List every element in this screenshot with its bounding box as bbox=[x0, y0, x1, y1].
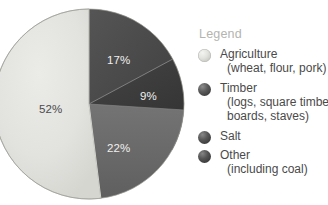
legend-sub-line: (wheat, flour, pork) bbox=[227, 61, 328, 76]
legend-swatch-salt-icon bbox=[198, 131, 211, 144]
legend-sub-agriculture: (wheat, flour, pork) bbox=[220, 61, 328, 76]
pie-chart-graphic: 52% 17% 9% 22% bbox=[0, 8, 185, 200]
legend-label-salt: Salt bbox=[220, 129, 328, 143]
legend-swatch-agriculture-icon bbox=[198, 49, 211, 62]
legend-sub-line: boards, staves) bbox=[227, 109, 328, 124]
legend-sub-line: (logs, square timber, bbox=[227, 95, 328, 110]
legend-title: Legend bbox=[198, 27, 328, 41]
legend-sub-timber: (logs, square timber, boards, staves) bbox=[220, 95, 328, 124]
legend-label-agriculture: Agriculture bbox=[220, 47, 328, 61]
legend-item-salt: Salt bbox=[198, 129, 328, 143]
pie-slice-other bbox=[89, 104, 184, 198]
legend-item-other: Other (including coal) bbox=[198, 148, 328, 177]
legend-item-timber: Timber (logs, square timber, boards, sta… bbox=[198, 81, 328, 124]
pie-svg: 52% 17% 9% 22% bbox=[0, 8, 185, 200]
pie-label-agriculture: 52% bbox=[39, 103, 62, 115]
legend-sub-line: (including coal) bbox=[227, 162, 328, 177]
legend-sub-other: (including coal) bbox=[220, 162, 328, 177]
legend: Legend Agriculture (wheat, flour, pork) … bbox=[198, 27, 328, 181]
legend-label-timber: Timber bbox=[220, 81, 328, 95]
legend-swatch-other-icon bbox=[198, 150, 211, 163]
pie-chart-figure: 52% 17% 9% 22% Legend Agriculture (wheat… bbox=[0, 0, 328, 205]
legend-item-agriculture: Agriculture (wheat, flour, pork) bbox=[198, 47, 328, 76]
legend-label-other: Other bbox=[220, 148, 328, 162]
legend-swatch-timber-icon bbox=[198, 83, 211, 96]
pie-label-other: 22% bbox=[107, 142, 130, 154]
pie-label-salt: 9% bbox=[140, 90, 157, 102]
pie-label-timber: 17% bbox=[107, 54, 130, 66]
